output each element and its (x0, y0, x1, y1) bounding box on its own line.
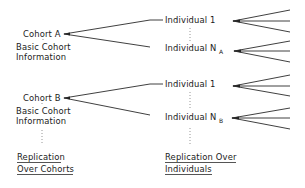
individual-b1-label: Individual 1 (165, 79, 216, 89)
fan-line (234, 51, 290, 62)
cohort-replication-diagram: Cohort A Basic Cohort Information Indivi… (0, 0, 305, 188)
fan-line (233, 21, 290, 32)
footer-left-line1: Replication (17, 152, 65, 162)
cohort-a-info-line1: Basic Cohort (16, 42, 71, 52)
fan-line (232, 108, 290, 118)
cohort-b-group: Cohort B Basic Cohort Information Indivi… (16, 75, 290, 129)
individual-na-label: Individual N (165, 43, 217, 53)
edge-cohort-a-to-individual-na (64, 34, 150, 47)
cohort-a-info-line2: Information (16, 52, 66, 62)
cohort-b-label: Cohort B (23, 93, 61, 103)
cohort-b-info-line1: Basic Cohort (16, 106, 71, 116)
cohort-a-label: Cohort A (23, 29, 61, 39)
individual-a1-label: Individual 1 (165, 15, 216, 25)
fan-line (233, 75, 290, 86)
cohort-b-info-line2: Information (16, 116, 66, 126)
footer-right-line1: Replication Over (165, 152, 237, 162)
fan-line (233, 10, 290, 21)
individual-nb-subscript: B (219, 117, 223, 124)
fan-line (232, 118, 290, 129)
fan-line (234, 41, 290, 51)
cohort-a-group: Cohort A Basic Cohort Information Indivi… (16, 10, 290, 62)
footer-left-line2: Over Cohorts (17, 164, 74, 174)
fan-line (233, 86, 290, 96)
individual-na-subscript: A (219, 48, 224, 55)
footer-right: Replication Over Individuals (165, 152, 237, 175)
individual-nb-label: Individual N (165, 112, 217, 122)
edge-cohort-b-to-individual-1 (64, 84, 150, 98)
edge-cohort-b-to-individual-nb (64, 98, 150, 115)
edge-cohort-a-to-individual-1 (64, 20, 150, 34)
footer-right-line2: Individuals (165, 164, 212, 174)
footer-left: Replication Over Cohorts (17, 152, 74, 175)
